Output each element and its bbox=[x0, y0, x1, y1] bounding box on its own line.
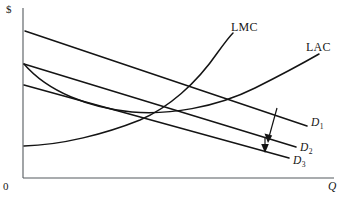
d2-letter: D bbox=[300, 141, 309, 153]
lac-curve bbox=[24, 54, 319, 113]
lmc-curve-label: LMC bbox=[231, 21, 258, 33]
demand-curve-d3 bbox=[24, 85, 289, 158]
origin-label: 0 bbox=[3, 181, 9, 192]
lac-curve-label: LAC bbox=[306, 41, 331, 53]
shift-arrow-d1-d2-shaft bbox=[269, 108, 277, 137]
d1-subscript: 1 bbox=[320, 122, 324, 131]
demand-curve-d1-label: D1 bbox=[311, 117, 324, 129]
x-axis-label: Q bbox=[328, 181, 337, 193]
diagram-canvas bbox=[0, 0, 341, 199]
demand-curve-d2-label: D2 bbox=[300, 142, 313, 154]
d3-subscript: 3 bbox=[302, 160, 306, 169]
d1-letter: D bbox=[311, 116, 320, 128]
y-axis-label: $ bbox=[6, 4, 12, 15]
d3-letter: D bbox=[293, 154, 302, 166]
economics-diagram: $ 0 Q LMC LAC D1 D2 D3 bbox=[0, 0, 341, 199]
d2-subscript: 2 bbox=[309, 147, 313, 156]
demand-curve-d3-label: D3 bbox=[293, 155, 306, 167]
